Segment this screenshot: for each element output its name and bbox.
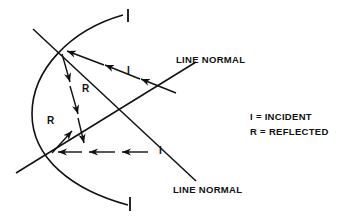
legend-incident: I = INCIDENT	[250, 112, 312, 122]
concave-mirror-arc	[32, 15, 128, 205]
reflected-ray-upper	[62, 54, 84, 143]
label-incident-upper: I	[127, 66, 130, 76]
label-line-normal-top: LINE NORMAL	[176, 55, 245, 65]
label-reflected-upper: R	[82, 84, 90, 94]
normal-line-upper	[33, 29, 196, 181]
label-reflected-lower: R	[47, 116, 55, 126]
reflected-ray-lower	[52, 131, 72, 153]
legend-reflected: R = REFLECTED	[250, 127, 329, 137]
label-incident-lower: I	[159, 146, 162, 156]
reflection-diagram: LINE NORMAL LINE NORMAL I I R R I = INCI…	[0, 0, 361, 224]
label-line-normal-bottom: LINE NORMAL	[173, 185, 242, 195]
